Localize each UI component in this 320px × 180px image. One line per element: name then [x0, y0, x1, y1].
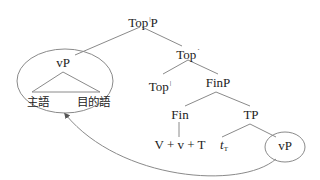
- node-trace: tT: [220, 138, 228, 156]
- node-finp: FinP: [206, 76, 231, 90]
- node-top-head: Top|: [149, 76, 171, 94]
- node-topP: Top|P: [128, 12, 158, 30]
- node-fin-content: V + v + T: [154, 138, 205, 152]
- node-fin: Fin: [171, 108, 188, 122]
- node-vp-fronted: vP: [56, 56, 70, 70]
- node-subject: 主語: [27, 95, 49, 109]
- node-object: 目的語: [77, 95, 110, 109]
- node-top-bar: Top´: [176, 44, 199, 62]
- node-vp-trace: vP: [278, 139, 292, 153]
- node-tp: TP: [243, 108, 258, 122]
